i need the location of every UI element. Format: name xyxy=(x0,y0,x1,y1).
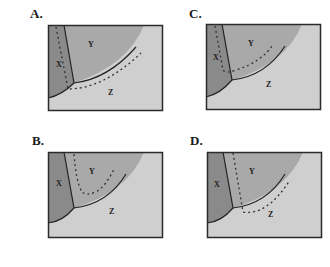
region-y-label: Y xyxy=(249,167,255,176)
region-z-label: Z xyxy=(268,210,273,219)
panel-label: C. xyxy=(189,6,202,22)
region-z-label: Z xyxy=(108,88,113,97)
region-y-label: Y xyxy=(89,167,95,176)
phase-diagram: Y X Z xyxy=(206,24,321,110)
region-x-label: X xyxy=(214,180,220,189)
panel-label: D. xyxy=(190,133,203,149)
region-y-label: Y xyxy=(88,40,94,49)
phase-diagram: Y X Z xyxy=(48,152,163,238)
region-x-label: X xyxy=(56,60,62,69)
region-x-label: X xyxy=(213,53,219,62)
phase-diagram: Y X Z xyxy=(207,152,322,238)
panel-label: A. xyxy=(30,6,43,22)
region-z-label: Z xyxy=(266,80,271,89)
region-y-label: Y xyxy=(248,39,254,48)
panel-label: B. xyxy=(32,133,44,149)
phase-diagram: Y X Z xyxy=(48,25,163,111)
region-x-label: X xyxy=(56,179,62,188)
region-z-label: Z xyxy=(109,207,114,216)
